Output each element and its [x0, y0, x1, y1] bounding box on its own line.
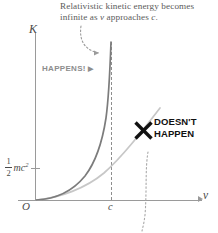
doesnt-happen-dotted-leader [142, 152, 148, 231]
annotation-doesnt-happen-line-1: DOESN'T [154, 116, 197, 128]
y-axis-label-K: K [29, 22, 37, 37]
x-axis-tick-label-c: c [108, 201, 113, 212]
triangle-right-icon: ▶ [88, 65, 93, 72]
origin-label-O: O [22, 200, 30, 212]
annotation-doesnt-happen-line-2: HAPPEN [154, 128, 197, 140]
y-axis-tick-label-half-mc-squared: 1 2 mc2 [5, 157, 28, 177]
expression-exponent: 2 [25, 161, 28, 168]
fraction-denominator: 2 [5, 169, 11, 178]
annotation-doesnt-happen: DOESN'T HAPPEN [154, 116, 197, 139]
fraction-one-half: 1 2 [5, 157, 12, 177]
expression-mc-squared: mc2 [14, 161, 29, 173]
x-axis-label-v: v [203, 189, 208, 201]
x-mark-icon [133, 120, 154, 141]
fraction-numerator: 1 [5, 157, 11, 166]
expression-mc: mc [14, 162, 26, 173]
annotation-happens-label: HAPPENS! [42, 64, 86, 73]
relativistic-kinetic-energy-figure: Relativistic kinetic energy becomes infi… [0, 0, 218, 233]
annotation-happens: HAPPENS! ▶ [42, 64, 94, 73]
